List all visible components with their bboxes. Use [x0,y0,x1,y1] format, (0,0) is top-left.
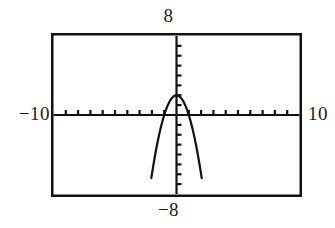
axis-label-left: −10 [4,104,50,123]
axis-label-top: 8 [0,6,335,25]
graph-figure: 8 −10 10 −8 [0,0,335,228]
plot-svg [51,33,302,197]
axis-label-bottom-text: −8 [158,200,179,219]
axis-label-top-text: 8 [164,6,174,25]
plot-area [51,33,302,197]
axis-label-right: 10 [308,104,334,123]
axis-label-bottom: −8 [0,200,335,219]
